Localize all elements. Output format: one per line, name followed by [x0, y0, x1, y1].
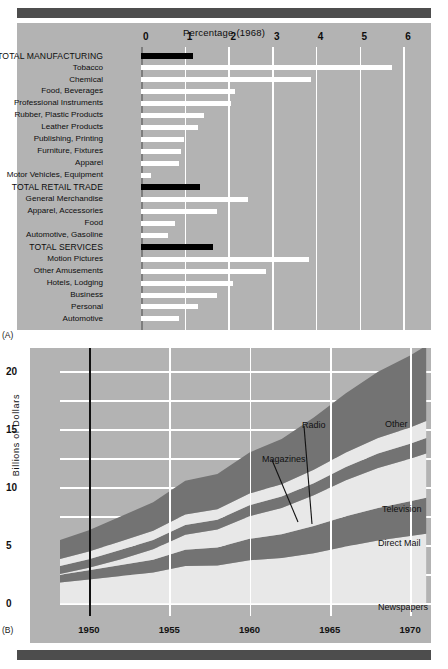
x-gridline-1955 [169, 348, 171, 616]
bar-label-food: Food [85, 219, 103, 227]
bar-motor-vehicles-equipment [141, 173, 151, 178]
gridline-5 [360, 47, 362, 330]
bar-label-total-manufacturing: TOTAL MANUFACTURING [0, 52, 103, 61]
area-label-newspapers: Newspapers [378, 602, 428, 612]
bar-label-furniture-fixtures: Furniture, Fixtures [37, 147, 103, 155]
bar-leather-products [141, 125, 198, 130]
bar-label-business: Business [70, 291, 103, 299]
panel-b-y-axis-title: Billions of Dollars [11, 375, 21, 495]
bar-total-retail-trade [141, 184, 200, 190]
bar-label-apparel: Apparel [75, 159, 103, 167]
bar-total-services [141, 244, 213, 250]
area-label-other: Other [385, 419, 408, 429]
bar-label-publishing-printing: Publishing, Printing [34, 135, 103, 143]
area-label-magazines: Magazines [262, 454, 306, 464]
bar-label-automotive-gasoline: Automotive, Gasoline [26, 231, 103, 239]
bar-professional-instruments [141, 101, 231, 106]
bar-publishing-printing [141, 137, 184, 142]
bar-label-other-amusements: Other Amusements [34, 267, 103, 275]
y-tick-label-0: 0 [6, 598, 12, 609]
y-tick-label-15: 15 [6, 424, 17, 435]
x-tick-label-1950: 1950 [78, 624, 99, 635]
bar-tobacco [141, 65, 392, 70]
panel-a-bar-chart: Percentage (1968) 0123456 TOTAL MANUFACT… [17, 23, 431, 330]
bar-label-food-beverages: Food, Beverages [41, 87, 103, 95]
x-gridline-1970 [410, 348, 412, 616]
bar-apparel [141, 161, 179, 166]
x-tick-label-1955: 1955 [159, 624, 180, 635]
x-tick-label-3: 3 [274, 31, 280, 42]
bar-chemical [141, 77, 311, 82]
panel-a-letter: (A) [2, 330, 13, 340]
reference-line-1950 [89, 348, 91, 616]
bar-food-beverages [141, 89, 235, 94]
bar-label-professional-instruments: Professional Instruments [14, 99, 103, 107]
x-tick-label-1970: 1970 [400, 624, 421, 635]
y-tick-label-10: 10 [6, 482, 17, 493]
gridline-4 [316, 47, 318, 330]
bar-label-tobacco: Tobacco [73, 64, 103, 72]
bar-label-personal: Personal [71, 303, 103, 311]
bar-label-total-services: TOTAL SERVICES [29, 243, 103, 252]
bar-label-chemical: Chemical [69, 76, 103, 84]
bar-label-rubber-plastic-products: Rubber, Plastic Products [14, 111, 103, 119]
stacked-area-bands [60, 348, 431, 616]
bar-business [141, 293, 217, 298]
x-tick-label-1965: 1965 [319, 624, 340, 635]
bar-label-hotels-lodging: Hotels, Lodging [47, 279, 103, 287]
area-label-radio: Radio [302, 420, 326, 430]
panel-b-plot-area [60, 348, 431, 616]
bar-furniture-fixtures [141, 149, 181, 154]
area-label-television: Television [382, 504, 422, 514]
bar-apparel-accessories [141, 209, 217, 214]
bar-rubber-plastic-products [141, 113, 204, 118]
panel-b-x-axis: 19501955196019651970 [30, 616, 431, 643]
bar-total-manufacturing [141, 53, 193, 59]
bar-motion-pictures [141, 257, 309, 262]
bar-label-motor-vehicles-equipment: Motor Vehicles, Equipment [7, 171, 103, 179]
bar-label-motion-pictures: Motion Pictures [47, 255, 103, 263]
panel-a-title: Percentage (1968) [17, 27, 431, 38]
bottom-rule [17, 650, 431, 660]
x-tick-label-0: 0 [143, 31, 149, 42]
bar-label-apparel-accessories: Apparel, Accessories [27, 207, 103, 215]
top-rule [17, 8, 431, 18]
bar-label-general-merchandise: General Merchandise [26, 195, 103, 203]
bar-hotels-lodging [141, 281, 233, 286]
area-label-direct-mail: Direct Mail [378, 538, 421, 548]
x-tick-label-6: 6 [405, 31, 411, 42]
y-tick-label-20: 20 [6, 366, 17, 377]
panel-a-plot-area: 0123456 [141, 47, 431, 330]
x-tick-label-2: 2 [230, 31, 236, 42]
x-tick-label-1960: 1960 [239, 624, 260, 635]
bar-food [141, 221, 175, 226]
gridline-6 [403, 47, 405, 330]
bar-automotive [141, 316, 179, 321]
bar-personal [141, 304, 198, 309]
bar-label-total-retail-trade: TOTAL RETAIL TRADE [12, 183, 103, 192]
gridline-3 [272, 47, 274, 330]
panel-b-letter: (B) [2, 625, 13, 635]
x-tick-label-5: 5 [362, 31, 368, 42]
x-gridline-1960 [250, 348, 252, 616]
bar-label-automotive: Automotive [63, 315, 104, 323]
x-tick-label-4: 4 [318, 31, 324, 42]
bar-automotive-gasoline [141, 233, 168, 238]
x-gridline-1965 [330, 348, 332, 616]
panel-b-area-chart: 19501955196019651970 [30, 348, 431, 643]
bar-general-merchandise [141, 197, 248, 202]
bar-other-amusements [141, 269, 266, 274]
bar-label-leather-products: Leather Products [41, 123, 103, 131]
y-tick-label-5: 5 [6, 540, 12, 551]
x-tick-label-1: 1 [187, 31, 193, 42]
